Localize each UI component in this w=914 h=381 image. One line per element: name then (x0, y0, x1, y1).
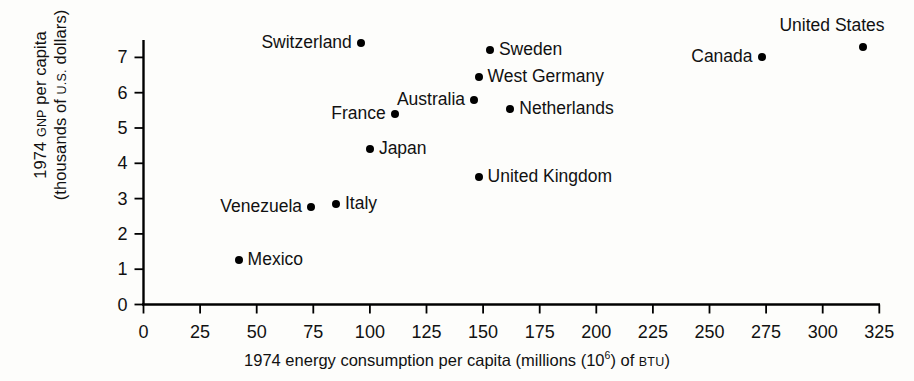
x-tick-label: 50 (247, 323, 267, 341)
y-axis-label: 1974 GNP per capita (thousands of U.S. d… (30, 0, 90, 235)
x-tick-label: 300 (808, 323, 838, 341)
data-point-label: Venezuela (220, 199, 302, 217)
data-point-label: Japan (379, 140, 427, 158)
data-point-marker (506, 105, 514, 113)
data-point-marker (235, 256, 243, 264)
x-axis-label-pre: 1974 energy consumption per capita (mill… (244, 351, 604, 369)
data-point-marker (357, 39, 365, 47)
data-point-label: United States (779, 17, 884, 35)
data-point-label: Australia (397, 91, 465, 109)
y-tick-label: 1 (102, 260, 128, 278)
x-tick-label: 175 (525, 323, 555, 341)
y-tick-label: 4 (102, 154, 128, 172)
y-tick-label: 7 (102, 48, 128, 66)
x-tick-label: 200 (581, 323, 611, 341)
y-axis-label-line2-smallcaps: U.S. (55, 69, 69, 94)
y-tick-label: 5 (102, 119, 128, 137)
x-tick-label: 150 (468, 323, 498, 341)
data-point-marker (366, 145, 374, 153)
x-tick-label: 275 (751, 323, 781, 341)
data-point-marker (332, 200, 340, 208)
x-axis-label-post: ) of (610, 351, 638, 369)
y-tick-label: 0 (102, 296, 128, 314)
data-point-label: Netherlands (519, 100, 613, 118)
x-tick-label: 250 (694, 323, 724, 341)
data-point-marker (307, 203, 315, 211)
data-point-label: West Germany (488, 68, 604, 86)
data-point-label: Canada (691, 49, 752, 67)
y-tick-label: 2 (102, 225, 128, 243)
data-point-label: Italy (345, 195, 377, 213)
x-axis-label-smallcaps: BTU (639, 355, 665, 369)
x-tick-label: 0 (138, 323, 148, 341)
y-axis-label-line1-post: per capita (31, 31, 49, 109)
y-axis-label-line1-pre: 1974 (31, 137, 49, 179)
x-tick-label: 100 (355, 323, 385, 341)
y-axis-label-line2-post: dollars) (51, 10, 69, 70)
y-axis-label-line2-pre: (thousands of (51, 94, 69, 200)
data-point-marker (486, 46, 494, 54)
data-point-marker (391, 110, 399, 118)
data-point-label: Switzerland (261, 35, 351, 53)
data-point-marker (475, 73, 483, 81)
y-tick-label: 3 (102, 190, 128, 208)
y-axis-label-line1-smallcaps: GNP (35, 109, 49, 137)
x-tick-label: 225 (638, 323, 668, 341)
data-point-label: Sweden (499, 42, 562, 60)
x-tick-label: 25 (190, 323, 210, 341)
x-tick-label: 325 (864, 323, 894, 341)
x-tick-label: 75 (303, 323, 323, 341)
data-point-marker (859, 43, 867, 51)
scatter-plot: 1974 GNP per capita (thousands of U.S. d… (0, 0, 914, 381)
data-point-label: France (331, 105, 385, 123)
y-tick-label: 6 (102, 84, 128, 102)
data-point-marker (475, 173, 483, 181)
data-point-label: United Kingdom (488, 169, 613, 187)
data-point-marker (470, 96, 478, 104)
x-axis-label: 1974 energy consumption per capita (mill… (0, 349, 914, 370)
data-point-label: Mexico (248, 252, 303, 270)
data-point-marker (758, 53, 766, 61)
x-tick-label: 125 (411, 323, 441, 341)
x-axis-label-end: ) (664, 351, 670, 369)
